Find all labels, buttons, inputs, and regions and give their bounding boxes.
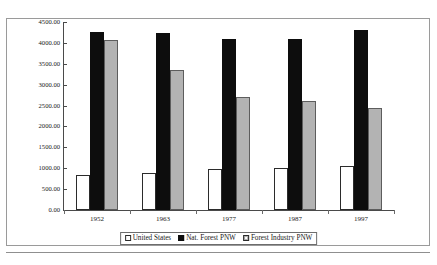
bar-forest-industry-pnw-1987 xyxy=(302,101,316,210)
x-axis-label: 1987 xyxy=(288,215,302,223)
legend-swatch-united-states-icon xyxy=(125,235,131,241)
legend-label: United States xyxy=(133,234,172,242)
x-axis-tick xyxy=(262,210,263,214)
bar-united-states-1963 xyxy=(142,173,156,210)
legend-item-united-states: United States xyxy=(125,234,172,242)
legend-label: Forest Industry PNW xyxy=(251,234,313,242)
bar-nat-forest-pnw-1987 xyxy=(288,39,302,210)
chart-figure: Timber Volume per Acre (cu. ft) 0.00500.… xyxy=(0,0,437,265)
bar-united-states-1997 xyxy=(340,166,354,210)
x-axis-label: 1997 xyxy=(354,215,368,223)
bar-forest-industry-pnw-1952 xyxy=(104,40,118,210)
x-axis-label: 1963 xyxy=(156,215,170,223)
bar-nat-forest-pnw-1963 xyxy=(156,33,170,210)
x-axis-tick xyxy=(64,210,65,214)
chart-legend: United StatesNat. Forest PNWForest Indus… xyxy=(120,232,318,245)
bar-forest-industry-pnw-1963 xyxy=(170,70,184,210)
bar-nat-forest-pnw-1997 xyxy=(354,30,368,210)
legend-swatch-forest-industry-pnw-icon xyxy=(243,235,249,241)
bar-united-states-1977 xyxy=(208,169,222,210)
legend-swatch-nat-forest-pnw-icon xyxy=(178,235,184,241)
bar-nat-forest-pnw-1952 xyxy=(90,32,104,210)
plot-area: Timber Volume per Acre (cu. ft) 0.00500.… xyxy=(63,22,394,211)
x-axis-label: 1977 xyxy=(222,215,236,223)
x-axis-tick xyxy=(394,210,395,214)
bar-united-states-1987 xyxy=(274,168,288,210)
legend-item-nat-forest-pnw: Nat. Forest PNW xyxy=(178,234,236,242)
bar-united-states-1952 xyxy=(76,175,90,211)
page-bottom-rule xyxy=(6,252,430,253)
x-axis-tick xyxy=(328,210,329,214)
x-axis-tick xyxy=(130,210,131,214)
bar-forest-industry-pnw-1977 xyxy=(236,97,250,210)
x-axis-label: 1952 xyxy=(90,215,104,223)
bar-forest-industry-pnw-1997 xyxy=(368,108,382,210)
legend-item-forest-industry-pnw: Forest Industry PNW xyxy=(243,234,313,242)
x-axis-tick xyxy=(196,210,197,214)
bar-nat-forest-pnw-1977 xyxy=(222,39,236,210)
legend-label: Nat. Forest PNW xyxy=(186,234,236,242)
